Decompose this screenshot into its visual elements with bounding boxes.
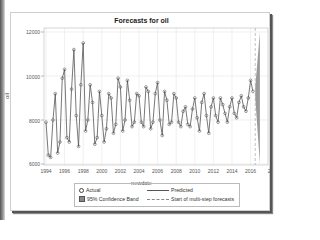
- x-tick: 2014: [222, 168, 242, 174]
- x-tick: 1998: [73, 168, 93, 174]
- legend-band: 95% Confidence Band: [79, 196, 139, 202]
- x-tick: 2002: [110, 168, 130, 174]
- dashed-line-icon: [147, 199, 169, 200]
- x-tick: 2006: [148, 168, 168, 174]
- legend-start: Start of multi-step forecasts: [147, 196, 234, 202]
- circle-marker-icon: [79, 188, 84, 193]
- plot-border: [44, 28, 268, 165]
- predicted-line: [46, 43, 253, 157]
- x-tick: 1994: [36, 168, 56, 174]
- legend-predicted: Predicted: [147, 187, 193, 193]
- solid-line-icon: [147, 190, 169, 191]
- x-tick: 2010: [185, 168, 205, 174]
- x-tick: 1996: [55, 168, 75, 174]
- x-tick: 2016: [241, 168, 261, 174]
- x-tick: 2008: [166, 168, 186, 174]
- confidence-band: [255, 32, 260, 164]
- x-tick: 2000: [92, 168, 112, 174]
- band-swatch-icon: [79, 196, 85, 202]
- x-tick: 2004: [129, 168, 149, 174]
- x-tick: 2: [259, 168, 279, 174]
- legend-actual: Actual: [79, 187, 100, 193]
- x-tick: 2012: [203, 168, 223, 174]
- legend: Actual 95% Confidence Band Predicted Sta…: [74, 183, 240, 207]
